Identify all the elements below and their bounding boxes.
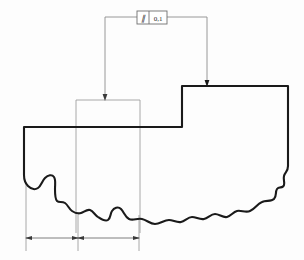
- dimension-right: [77, 236, 140, 240]
- parallelism-callout[interactable]: ∥ 0,1: [137, 11, 167, 24]
- extension-lines: [26, 182, 139, 251]
- projection-rectangle: [76, 100, 140, 233]
- tolerance-value: 0,1: [154, 15, 163, 23]
- technical-drawing-canvas: ∥ 0,1: [0, 0, 304, 260]
- leader-left: [103, 17, 139, 101]
- part-section-outline: [24, 86, 288, 224]
- dimension-left: [25, 236, 79, 240]
- leader-right: [166, 17, 209, 87]
- drawing-svg: ∥ 0,1: [0, 0, 304, 260]
